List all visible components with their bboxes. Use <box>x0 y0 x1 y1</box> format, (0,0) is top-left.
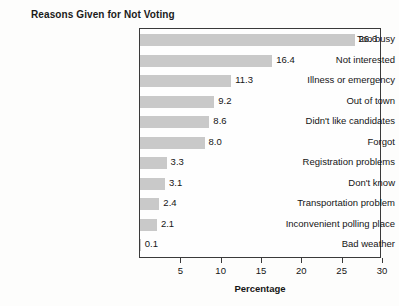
bar <box>140 198 159 210</box>
x-axis-tick-mark <box>180 258 181 263</box>
bar <box>140 96 214 108</box>
x-axis-tick-mark <box>221 258 222 263</box>
bar-value-label: 3.3 <box>171 156 184 167</box>
x-axis-tick-mark <box>342 258 343 263</box>
x-axis-tick-label: 10 <box>215 265 226 276</box>
bar-value-label: 0.1 <box>145 238 158 249</box>
page-title: Reasons Given for Not Voting <box>31 9 175 20</box>
bar-value-label: 9.2 <box>218 95 231 106</box>
bar-value-label: 2.4 <box>163 197 176 208</box>
bar <box>140 219 157 231</box>
bar-value-label: 8.6 <box>213 115 226 126</box>
bar-value-label: 3.1 <box>169 177 182 188</box>
chart-page: Reasons Given for Not Voting Too busyNot… <box>0 0 399 306</box>
category-label: Bad weather <box>265 238 399 249</box>
bar-value-label: 2.1 <box>161 218 174 229</box>
category-label: Out of town <box>265 95 399 106</box>
x-axis-tick-mark <box>382 258 383 263</box>
x-axis-tick-label: 30 <box>377 265 388 276</box>
bar-value-label: 8.0 <box>209 136 222 147</box>
x-axis-tick-label: 25 <box>336 265 347 276</box>
bar-value-label: 16.4 <box>276 54 295 65</box>
category-label: Don't know <box>265 177 399 188</box>
bar <box>140 116 209 128</box>
bar <box>140 239 141 251</box>
category-label: Illness or emergency <box>265 74 399 85</box>
bar <box>140 137 205 149</box>
category-label: Inconvenient polling place <box>265 218 399 229</box>
category-label: Transportation problem <box>265 197 399 208</box>
x-axis-tick-label: 5 <box>178 265 183 276</box>
bar-value-label: 11.3 <box>235 74 253 85</box>
category-label: Registration problems <box>265 156 399 167</box>
x-axis-tick-mark <box>301 258 302 263</box>
category-label: Forgot <box>265 136 399 147</box>
bar <box>140 178 165 190</box>
x-axis-title: Percentage <box>139 283 381 294</box>
x-axis-tick-label: 15 <box>256 265 267 276</box>
bar-value-label: 26.6 <box>359 33 378 44</box>
bar <box>140 75 231 87</box>
bar <box>140 55 272 67</box>
x-axis-tick-mark <box>261 258 262 263</box>
bar <box>140 34 355 46</box>
x-axis-tick-label: 20 <box>296 265 307 276</box>
category-label: Didn't like candidates <box>265 115 399 126</box>
bar <box>140 157 167 169</box>
